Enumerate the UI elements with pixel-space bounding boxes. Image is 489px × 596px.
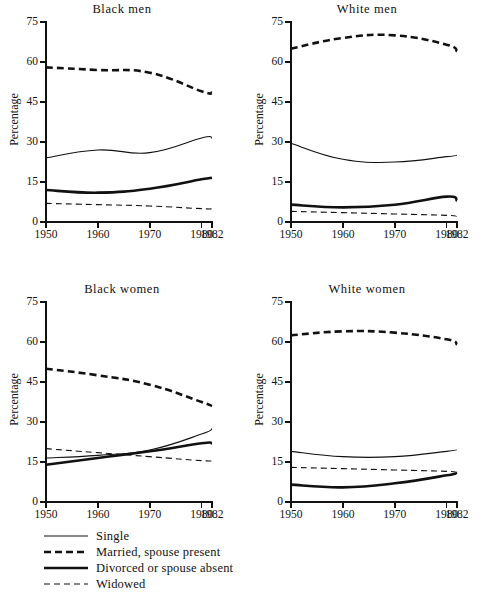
y-tick-label: 30	[0, 136, 38, 148]
y-tick-label: 45	[0, 376, 38, 388]
panel-white-men: White men Percentage 0153045607519501960…	[245, 0, 489, 266]
y-tick-mark	[40, 341, 45, 343]
x-tick-label: 1960	[78, 229, 118, 241]
y-tick-mark	[40, 421, 45, 423]
y-tick-label: 45	[0, 96, 38, 108]
series-layer	[46, 22, 212, 222]
y-tick-label: 30	[0, 416, 38, 428]
y-axis-label: Percentage	[7, 72, 22, 168]
y-tick-mark	[40, 181, 45, 183]
y-axis-label: Percentage	[7, 352, 22, 448]
x-tick-label: 1970	[130, 229, 170, 241]
panel-white-women: White women Percentage 01530456075195019…	[245, 280, 489, 546]
x-tick-label: 1950	[26, 509, 66, 521]
legend-label: Widowed	[96, 577, 146, 592]
y-axis-label: Percentage	[252, 72, 267, 168]
multi-panel-line-chart: Black men Percentage 0153045607519501960…	[0, 0, 489, 596]
x-tick-label: 1970	[375, 509, 415, 521]
series-layer	[46, 302, 212, 502]
y-tick-mark	[285, 341, 290, 343]
series-line	[291, 35, 457, 52]
y-tick-mark	[40, 461, 45, 463]
y-tick-mark	[285, 421, 290, 423]
legend: SingleMarried, spouse presentDivorced or…	[44, 528, 374, 592]
legend-label: Married, spouse present	[96, 545, 220, 560]
x-tick-label: 1960	[78, 509, 118, 521]
y-axis-label: Percentage	[252, 352, 267, 448]
x-tick-label: 1982	[437, 509, 477, 521]
y-tick-mark	[285, 381, 290, 383]
panel-black-men: Black men Percentage 0153045607519501960…	[0, 0, 244, 266]
series-line	[291, 473, 457, 488]
legend-item: Married, spouse present	[44, 544, 374, 560]
y-tick-label: 60	[245, 56, 283, 68]
y-tick-label: 75	[0, 296, 38, 308]
series-layer	[291, 302, 457, 502]
series-line	[46, 137, 212, 158]
series-line	[46, 449, 212, 461]
series-layer	[291, 22, 457, 222]
legend-line-swatch	[44, 529, 88, 543]
x-tick-label: 1960	[323, 229, 363, 241]
series-line	[46, 178, 212, 193]
y-tick-mark	[40, 61, 45, 63]
panel-black-women: Black women Percentage 01530456075195019…	[0, 280, 244, 546]
y-tick-mark	[285, 21, 290, 23]
x-tick-label: 1950	[271, 509, 311, 521]
legend-label: Divorced or spouse absent	[96, 561, 233, 576]
x-tick-label: 1950	[271, 229, 311, 241]
y-tick-label: 0	[245, 216, 283, 228]
y-tick-mark	[40, 101, 45, 103]
x-tick-label: 1970	[375, 229, 415, 241]
x-tick-label: 1982	[192, 229, 232, 241]
series-line	[291, 450, 457, 458]
y-tick-mark	[285, 461, 290, 463]
y-tick-label: 15	[245, 176, 283, 188]
series-line	[46, 67, 212, 93]
y-tick-label: 0	[0, 216, 38, 228]
y-tick-label: 30	[245, 416, 283, 428]
y-tick-label: 15	[245, 456, 283, 468]
y-tick-label: 75	[245, 16, 283, 28]
y-tick-mark	[285, 301, 290, 303]
series-line	[291, 331, 457, 345]
y-tick-label: 75	[0, 16, 38, 28]
y-tick-label: 15	[0, 176, 38, 188]
y-tick-mark	[40, 381, 45, 383]
y-tick-mark	[40, 301, 45, 303]
y-tick-label: 60	[0, 336, 38, 348]
x-tick-label: 1970	[130, 509, 170, 521]
y-tick-label: 0	[0, 496, 38, 508]
legend-item: Single	[44, 528, 374, 544]
y-tick-label: 60	[0, 56, 38, 68]
y-tick-label: 30	[245, 136, 283, 148]
series-line	[291, 197, 457, 208]
y-tick-mark	[285, 101, 290, 103]
series-line	[291, 211, 457, 216]
y-tick-mark	[285, 61, 290, 63]
y-tick-mark	[285, 181, 290, 183]
legend-line-swatch	[44, 561, 88, 575]
y-tick-label: 45	[245, 96, 283, 108]
y-tick-mark	[285, 141, 290, 143]
series-line	[46, 369, 212, 406]
series-line	[46, 443, 212, 465]
y-tick-mark	[40, 21, 45, 23]
x-tick-label: 1960	[323, 509, 363, 521]
x-tick-label: 1982	[437, 229, 477, 241]
series-line	[46, 203, 212, 209]
y-tick-label: 75	[245, 296, 283, 308]
series-line	[291, 143, 457, 162]
y-tick-label: 45	[245, 376, 283, 388]
y-tick-mark	[40, 141, 45, 143]
y-tick-label: 60	[245, 336, 283, 348]
x-tick-label: 1950	[26, 229, 66, 241]
legend-item: Widowed	[44, 576, 374, 592]
series-line	[291, 467, 457, 472]
y-tick-label: 15	[0, 456, 38, 468]
y-tick-label: 0	[245, 496, 283, 508]
legend-line-swatch	[44, 545, 88, 559]
x-tick-label: 1982	[192, 509, 232, 521]
legend-item: Divorced or spouse absent	[44, 560, 374, 576]
legend-label: Single	[96, 529, 129, 544]
